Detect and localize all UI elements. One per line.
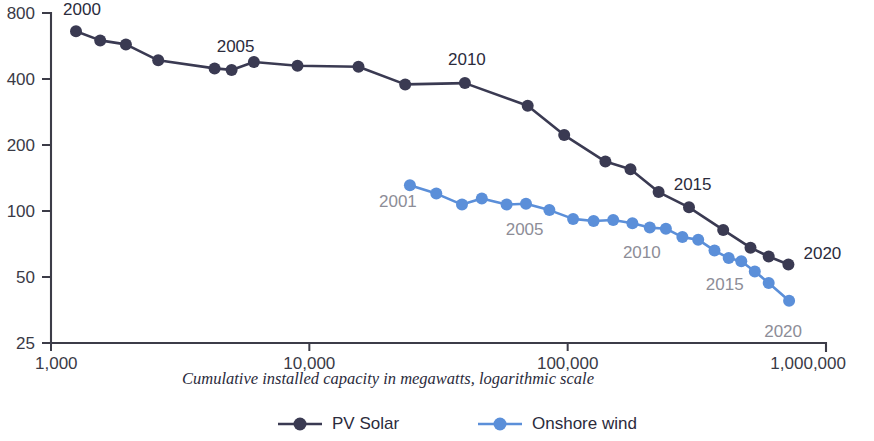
data-point[interactable] xyxy=(653,186,665,198)
legend-label: PV Solar xyxy=(332,414,399,433)
data-point[interactable] xyxy=(558,129,570,141)
x-tick-label: 1,000 xyxy=(35,354,78,373)
data-point[interactable] xyxy=(94,34,106,46)
data-point[interactable] xyxy=(723,252,735,264)
x-axis-ticks: 1,00010,000100,0001,000,000 xyxy=(35,335,846,373)
data-point[interactable] xyxy=(745,242,757,254)
legend-marker xyxy=(294,418,307,431)
data-point[interactable] xyxy=(459,77,471,89)
data-point[interactable] xyxy=(660,223,672,235)
data-point[interactable] xyxy=(226,64,238,76)
year-label: 2015 xyxy=(706,275,744,294)
x-tick-label: 1,000,000 xyxy=(770,354,846,373)
y-tick-label: 200 xyxy=(7,136,35,155)
data-point[interactable] xyxy=(763,277,775,289)
series-line xyxy=(76,31,788,264)
data-point[interactable] xyxy=(692,234,704,246)
legend-item-onshore-wind[interactable]: Onshore wind xyxy=(478,414,637,433)
legend-marker xyxy=(494,418,507,431)
x-axis-caption: Cumulative installed capacity in megawat… xyxy=(182,369,594,388)
data-point[interactable] xyxy=(209,62,221,74)
data-point[interactable] xyxy=(152,54,164,66)
year-label: 2015 xyxy=(674,175,712,194)
y-tick-label: 100 xyxy=(7,202,35,221)
data-point[interactable] xyxy=(676,231,688,243)
year-label: 2020 xyxy=(764,322,802,341)
y-tick-label: 800 xyxy=(7,4,35,23)
chart-container: 2550100200400800 1,00010,000100,0001,000… xyxy=(0,0,874,441)
data-point[interactable] xyxy=(717,224,729,236)
data-point[interactable] xyxy=(749,266,761,278)
data-point[interactable] xyxy=(120,38,132,50)
x-axis-line xyxy=(51,343,826,352)
year-annotations: 2000200520102015202020012005201020152020 xyxy=(63,0,841,340)
y-axis-ticks: 2550100200400800 xyxy=(7,4,51,353)
data-point[interactable] xyxy=(625,163,637,175)
year-label: 2000 xyxy=(63,0,101,19)
data-point[interactable] xyxy=(599,156,611,168)
y-tick-label: 400 xyxy=(7,70,35,89)
series-layer xyxy=(70,25,795,306)
data-point[interactable] xyxy=(476,193,488,205)
data-point[interactable] xyxy=(520,198,532,210)
year-label: 2020 xyxy=(803,244,841,263)
data-point[interactable] xyxy=(543,204,555,216)
data-point[interactable] xyxy=(644,222,656,234)
data-point[interactable] xyxy=(353,61,365,73)
data-point[interactable] xyxy=(399,78,411,90)
data-point[interactable] xyxy=(709,245,721,257)
data-point[interactable] xyxy=(763,251,775,263)
data-point[interactable] xyxy=(248,56,260,68)
data-point[interactable] xyxy=(626,217,638,229)
data-point[interactable] xyxy=(404,179,416,191)
data-point[interactable] xyxy=(292,60,304,72)
legend-label: Onshore wind xyxy=(532,414,637,433)
year-label: 2010 xyxy=(623,243,661,262)
data-point[interactable] xyxy=(70,25,82,37)
year-label: 2010 xyxy=(448,50,486,69)
year-label: 2005 xyxy=(217,37,255,56)
data-point[interactable] xyxy=(683,201,695,213)
data-point[interactable] xyxy=(501,199,513,211)
data-point[interactable] xyxy=(588,215,600,227)
data-point[interactable] xyxy=(607,214,619,226)
data-point[interactable] xyxy=(522,100,534,112)
data-point[interactable] xyxy=(783,295,795,307)
data-point[interactable] xyxy=(430,188,442,200)
data-point[interactable] xyxy=(456,199,468,211)
chart-legend: PV SolarOnshore wind xyxy=(278,414,637,433)
year-label: 2001 xyxy=(379,192,417,211)
line-chart: 2550100200400800 1,00010,000100,0001,000… xyxy=(0,0,874,441)
y-tick-label: 50 xyxy=(16,268,35,287)
data-point[interactable] xyxy=(735,255,747,267)
data-point[interactable] xyxy=(782,259,794,271)
y-tick-label: 25 xyxy=(16,334,35,353)
data-point[interactable] xyxy=(567,213,579,225)
year-label: 2005 xyxy=(506,220,544,239)
legend-item-pv-solar[interactable]: PV Solar xyxy=(278,414,399,433)
